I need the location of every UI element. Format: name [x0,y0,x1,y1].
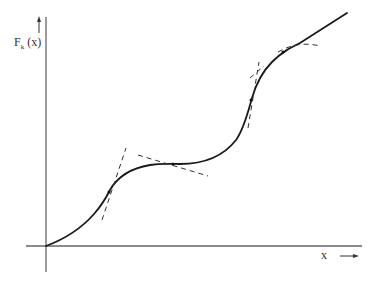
y-label-argument: (x) [27,35,41,49]
y-axis-label: Fk(x) [14,36,41,48]
x-arrow-icon [340,254,359,258]
function-diagram: Fk(x) x [0,0,376,281]
point-4 [282,51,285,54]
y-label-subscript: k [21,43,25,51]
point-2 [172,163,175,166]
point-1 [108,191,111,194]
tangent-lines [102,44,320,220]
x-axis-label: x [321,249,327,261]
tangent-line-1 [102,148,126,220]
y-arrow-icon [37,16,41,33]
tangent-points [108,51,285,194]
y-label-main: F [14,35,21,49]
main-curve [46,13,347,246]
point-3 [250,99,253,102]
diagram-canvas [0,0,376,281]
